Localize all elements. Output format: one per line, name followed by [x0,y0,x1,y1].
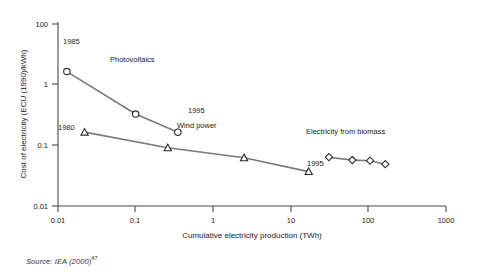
x-tick-label-10: 10 [287,216,295,225]
y-tick-label-100: 100 [35,20,48,29]
source-note-text: Source: IEA (2000) [26,257,91,266]
source-note-superscript: 47 [91,255,97,261]
annotation-wind-1995: 1995 [307,159,324,168]
y-axis-title: Cost of electricity (ECU (1990)/kWh) [19,49,28,178]
data-point-marker [366,157,373,164]
series-electricity-from-biomass [325,154,389,168]
y-tick-label-0.1: 0.1 [38,141,48,150]
series-line-photovoltaics [67,72,178,133]
series-line-wind-power [85,132,309,171]
series-photovoltaics [64,68,181,135]
data-point-marker [64,68,70,74]
x-axis-ticks [58,206,446,212]
x-axis-title: Cumulative electricity production (TWh) [182,231,322,240]
data-point-marker [325,154,332,161]
annotation-wind-1980: 1980 [58,123,75,132]
data-point-marker [132,111,138,117]
chart-annotations: 1985 Photovoltaics 1995 1980 Wind power … [58,37,385,168]
annotation-pv-1985: 1985 [63,37,80,46]
data-point-marker [382,161,389,168]
y-axis-ticks [52,24,58,206]
source-note: Source: IEA (2000)47 [26,255,98,266]
figure-container: 100 1 0.1 0.01 0.01 0.1 1 10 100 1000 Cu… [0,0,479,274]
x-tick-label-1: 1 [211,216,215,225]
annotation-pv-1995: 1995 [188,106,205,115]
log-log-learning-curve-chart: 100 1 0.1 0.01 0.01 0.1 1 10 100 1000 Cu… [0,0,479,274]
x-tick-label-0.1: 0.1 [130,216,140,225]
y-tick-label-0.01: 0.01 [33,202,48,211]
x-tick-label-0.01: 0.01 [51,216,66,225]
y-tick-label-1: 1 [44,80,48,89]
annotation-series-label-wind-power: Wind power [177,121,217,130]
series-line-biomass [329,157,385,164]
y-axis-tick-labels: 100 1 0.1 0.01 [33,20,48,211]
series-wind-power [81,129,312,175]
x-tick-label-100: 100 [362,216,375,225]
annotation-series-label-biomass: Electricity from biomass [306,127,385,136]
x-axis-tick-labels: 0.01 0.1 1 10 100 1000 [51,216,455,225]
annotation-series-label-photovoltaics: Photovoltaics [110,55,155,64]
x-tick-label-1000: 1000 [438,216,455,225]
data-point-marker [349,157,356,164]
